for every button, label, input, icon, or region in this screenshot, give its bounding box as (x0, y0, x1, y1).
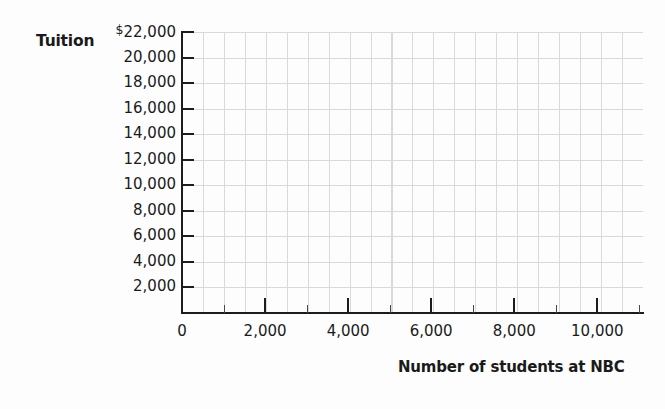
y-axis-tick-label: 10,000 (76, 175, 176, 193)
x-axis-tick (430, 298, 432, 313)
y-axis-tick (183, 210, 194, 212)
x-axis-tick-label: 0 (177, 322, 187, 340)
x-axis-line (181, 312, 644, 314)
y-axis-tick (183, 184, 194, 186)
x-axis-tick (347, 298, 349, 313)
x-axis-minor-tick (473, 305, 474, 313)
x-axis-minor-tick (224, 305, 225, 313)
y-axis-tick (183, 108, 194, 110)
y-axis-tick (183, 159, 194, 161)
x-axis-tick-label: 2,000 (244, 322, 287, 340)
x-axis-tick (596, 298, 598, 313)
y-axis-tick-label: 18,000 (76, 73, 176, 91)
y-axis-tick-labels: $22,00020,00018,00016,00014,00012,00010,… (72, 0, 176, 409)
x-axis-title: Number of students at NBC (398, 358, 625, 376)
y-axis-tick (183, 235, 194, 237)
x-axis-tick (513, 298, 515, 313)
x-axis-minor-tick (556, 305, 557, 313)
y-axis-tick (183, 286, 194, 288)
x-axis-tick-label: 6,000 (410, 322, 453, 340)
y-axis-tick-label: 14,000 (76, 124, 176, 142)
y-axis-tick (183, 31, 194, 33)
y-axis-tick (183, 133, 194, 135)
y-axis-tick-label: 12,000 (76, 150, 176, 168)
y-axis-tick (183, 57, 194, 59)
y-axis-tick-label: 6,000 (76, 226, 176, 244)
y-axis-tick-label: 8,000 (76, 201, 176, 219)
y-axis-tick-label: 2,000 (76, 277, 176, 295)
y-axis-tick (183, 261, 194, 263)
y-axis-tick-label: 4,000 (76, 252, 176, 270)
x-axis-tick (181, 298, 183, 313)
y-axis-tick (183, 82, 194, 84)
plot-area (182, 32, 643, 313)
gridlines (182, 32, 643, 313)
x-axis-tick-label: 10,000 (571, 322, 624, 340)
x-axis-tick (264, 298, 266, 313)
x-axis-tick-label: 8,000 (493, 322, 536, 340)
currency-symbol: $ (116, 22, 124, 37)
x-axis-minor-tick (307, 305, 308, 313)
y-axis-tick-label: 20,000 (76, 48, 176, 66)
x-axis-minor-tick (390, 305, 391, 313)
y-axis-tick-label: 16,000 (76, 99, 176, 117)
x-axis-minor-tick (639, 305, 640, 313)
y-axis-tick-label: $22,000 (76, 22, 176, 41)
x-axis-tick-label: 4,000 (327, 322, 370, 340)
y-axis-line (181, 31, 183, 314)
chart-container: Tuition $22,00020,00018,00016,00014,0001… (0, 0, 665, 409)
